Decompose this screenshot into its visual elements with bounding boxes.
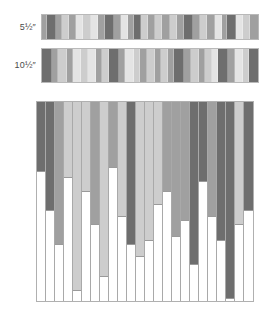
strip-segment <box>215 15 222 39</box>
strip-segment <box>207 15 214 39</box>
bar-column <box>244 102 253 301</box>
bar-column <box>100 102 109 301</box>
strip-segment <box>235 49 243 82</box>
bar-fill <box>127 102 135 245</box>
strip-segment <box>174 49 184 82</box>
bar-column <box>145 102 154 301</box>
bar-column <box>127 102 136 301</box>
bar-fill <box>226 102 234 299</box>
strip-segment <box>147 49 155 82</box>
bar-fill <box>82 102 90 192</box>
bar-fill <box>91 102 99 225</box>
bar-fill <box>172 102 180 237</box>
strip-segment <box>134 15 141 39</box>
strip-segment <box>155 15 162 39</box>
bar-column <box>172 102 181 301</box>
bar-fill <box>46 102 54 211</box>
bar-fill <box>109 102 117 168</box>
bar-column <box>55 102 64 301</box>
bar-fill <box>190 102 198 265</box>
bar-fill <box>235 102 243 225</box>
strip-segment <box>88 49 96 82</box>
bar-fill <box>199 102 207 182</box>
bar-column <box>73 102 82 301</box>
strip-segment <box>125 49 133 82</box>
strip-segment <box>98 15 105 39</box>
bar-column <box>181 102 190 301</box>
bar-chart <box>36 101 254 302</box>
strip-segment <box>69 15 76 39</box>
strip-segment <box>236 15 243 39</box>
bar-fill <box>181 102 189 221</box>
strip-segment <box>109 49 119 82</box>
bar-fill <box>37 102 45 172</box>
strip-segment <box>184 15 193 39</box>
bar-fill <box>64 102 72 178</box>
bar-column <box>136 102 145 301</box>
bar-fill <box>145 102 153 241</box>
strip-segment <box>218 49 228 82</box>
strip-segment <box>42 49 52 82</box>
bar-column <box>154 102 163 301</box>
strip-segment <box>141 15 148 39</box>
bar-column <box>199 102 208 301</box>
strip-segment <box>177 15 184 39</box>
strip-segment <box>148 15 155 39</box>
bar-fill <box>208 102 216 217</box>
strip-segment <box>227 15 236 39</box>
bar-fill <box>118 102 126 217</box>
strip-segment <box>191 49 199 82</box>
strip-segment <box>193 15 200 39</box>
bar-fill <box>163 102 171 192</box>
strip-segment <box>250 15 257 39</box>
bar-column <box>163 102 172 301</box>
strip-segment <box>170 15 177 39</box>
bar-fill <box>73 102 81 291</box>
strip-row-10-5-inch: 10½″ <box>0 48 264 83</box>
strip-row-5-5-inch: 5½″ <box>0 14 264 40</box>
strip-band-10-5-inch <box>41 48 259 83</box>
strip-segment <box>243 15 250 39</box>
strip-segment <box>121 15 128 39</box>
strip-segment <box>47 15 56 39</box>
bar-fill <box>217 102 225 241</box>
strip-segment <box>91 15 98 39</box>
strip-segment <box>162 15 169 39</box>
strip-segment <box>73 49 81 82</box>
strip-segment <box>114 15 121 39</box>
bar-fill <box>244 102 253 211</box>
strip-segment <box>62 15 69 39</box>
bar-column <box>217 102 226 301</box>
bar-column <box>190 102 199 301</box>
figure-root: 5½″ 10½″ <box>0 0 264 312</box>
bar-fill <box>100 102 108 277</box>
bar-column <box>208 102 217 301</box>
strip-segment <box>249 49 257 82</box>
strip-segment <box>200 15 207 39</box>
bar-fill <box>55 102 63 245</box>
strip-segment <box>58 49 66 82</box>
strip-segment <box>105 15 114 39</box>
strip-label-10-5-inch: 10½″ <box>0 61 41 70</box>
bar-column <box>91 102 100 301</box>
bar-column <box>82 102 91 301</box>
bar-column <box>37 102 46 301</box>
bar-column <box>109 102 118 301</box>
strip-segment <box>83 15 90 39</box>
bar-fill <box>136 102 144 257</box>
bar-column <box>235 102 244 301</box>
strip-band-5-5-inch <box>41 14 259 40</box>
bar-column <box>46 102 55 301</box>
bar-column <box>226 102 235 301</box>
strip-segment <box>76 15 83 39</box>
bar-column <box>64 102 73 301</box>
bar-column <box>118 102 127 301</box>
bar-fill <box>154 102 162 205</box>
strip-label-5-5-inch: 5½″ <box>0 23 41 32</box>
